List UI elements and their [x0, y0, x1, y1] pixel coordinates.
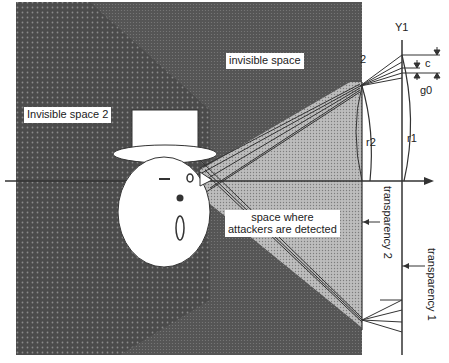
y1-axis-label: Y1: [395, 22, 408, 33]
g0-label: g0: [420, 85, 432, 96]
r2-label: r2: [366, 137, 376, 148]
detected-space-label: space where attackers are detected: [225, 210, 340, 237]
transparency-2-label: transparency 2: [382, 186, 393, 259]
nose: [177, 195, 184, 202]
detected-space-line1: space where: [251, 211, 313, 223]
hat-crown: [132, 110, 198, 150]
num-2-label: 2: [360, 54, 366, 65]
c-label: c: [425, 58, 431, 69]
transparency-1-label: transparency 1: [426, 248, 437, 321]
detected-space-line2: attackers are detected: [228, 223, 337, 235]
r1-arc: [402, 55, 411, 181]
head: [118, 157, 210, 267]
x-axis-arrow: [424, 177, 434, 185]
invisible-space-2-label: Invisible space 2: [24, 107, 111, 123]
invisible-space-label: invisible space: [226, 53, 304, 69]
diagram-canvas: [0, 0, 449, 363]
r1-label: r1: [407, 133, 417, 144]
r2-arc: [362, 86, 371, 181]
